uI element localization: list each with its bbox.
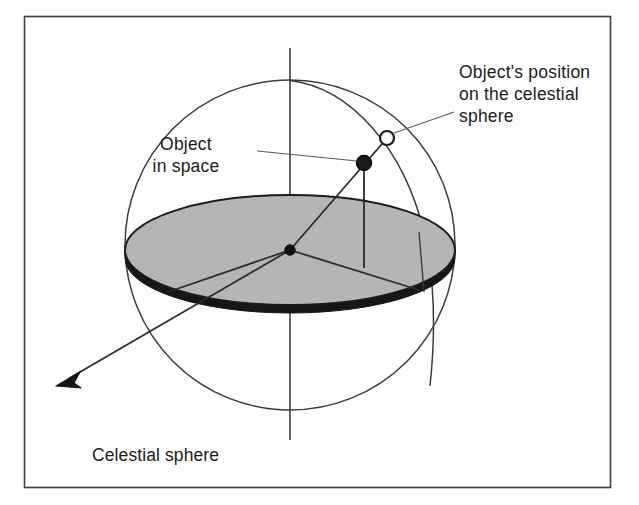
label-object-in-space-line1: Object (160, 134, 212, 154)
label-object-position-line1: Object's position (459, 62, 590, 82)
label-object-position-line3: sphere (459, 106, 514, 126)
figure-root: Object in space Object's position on the… (0, 0, 639, 505)
label-celestial-sphere: Celestial sphere (92, 445, 219, 465)
label-object-position-line2: on the celestial (459, 84, 579, 104)
object-in-space-dot (356, 155, 371, 170)
object-on-sphere-open-circle (380, 131, 394, 145)
observer-origin-dot (285, 245, 295, 255)
celestial-sphere-diagram: Object in space Object's position on the… (0, 0, 639, 505)
label-object-in-space-line2: in space (153, 156, 220, 176)
